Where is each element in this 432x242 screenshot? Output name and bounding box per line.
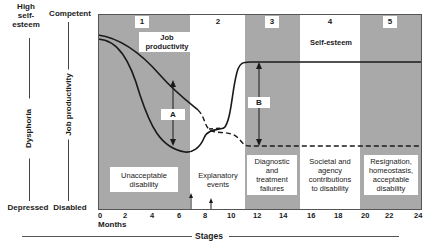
stage-5-caption: Resignation, homeostasis, acceptable dis… (364, 155, 418, 195)
stages-line-left (22, 236, 192, 237)
x-tick: 24 (414, 211, 422, 220)
job-productivity-curve-dashed (198, 110, 422, 146)
stage-3-caption: Diagnostic and treatment failures (247, 155, 297, 195)
x-tick: 2 (123, 211, 127, 220)
x-tick: 16 (307, 211, 315, 220)
job-productivity-curve (98, 35, 198, 110)
stages-label: Stages (195, 231, 223, 241)
x-tick: 10 (227, 211, 235, 220)
x-tick: 0 (98, 211, 102, 220)
x-tick: 20 (361, 211, 369, 220)
x-tick: 12 (253, 211, 261, 220)
x-tick: 18 (334, 211, 342, 220)
gap-a-label: A (161, 109, 185, 120)
stage-1-caption: Unacceptable disability (110, 167, 178, 192)
stage-4-caption: Societal and agency contributions to dis… (301, 155, 359, 195)
x-tick: 22 (385, 211, 393, 220)
stage-2-caption: Explanatory events (192, 170, 244, 190)
x-tick: 14 (279, 211, 287, 220)
self-esteem-curve-rise (224, 62, 422, 128)
x-tick: 4 (150, 211, 154, 220)
x-tick: 8 (203, 211, 207, 220)
gap-b-label: B (248, 97, 270, 108)
months-label: Months (98, 220, 126, 229)
self-esteem-curve (98, 39, 224, 152)
stages-line-right (229, 236, 399, 237)
x-tick: 6 (177, 211, 181, 220)
chart-curves (0, 0, 432, 242)
